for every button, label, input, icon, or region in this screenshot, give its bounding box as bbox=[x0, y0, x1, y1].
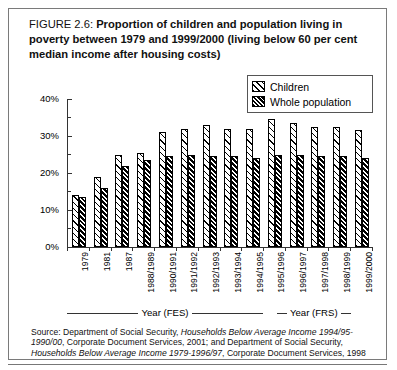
source-italic-2: Households Below Average Income 1979-199… bbox=[31, 348, 222, 358]
x-axis-tick-label: 1988/1989 bbox=[147, 252, 156, 293]
bar-children bbox=[246, 129, 253, 247]
x-axis-tick-mark bbox=[285, 247, 286, 251]
bar-series-container bbox=[68, 99, 373, 247]
axis-group-frs-label: Year (FRS) bbox=[287, 307, 341, 319]
x-axis-tick-label: 1992/1993 bbox=[212, 252, 221, 293]
plot-area bbox=[67, 99, 373, 248]
x-axis-tick-label: 1996/1997 bbox=[299, 252, 308, 293]
y-axis-tick-label: 40% bbox=[40, 92, 59, 105]
bar-group bbox=[115, 99, 129, 247]
figure-caption: FIGURE 2.6: Proportion of children and p… bbox=[29, 17, 369, 62]
x-axis-tick-label: 1987 bbox=[125, 252, 134, 271]
bar-group bbox=[355, 99, 369, 247]
bar-whole-population bbox=[144, 160, 151, 247]
bar-children bbox=[181, 129, 188, 247]
bar-whole-population bbox=[231, 156, 238, 247]
x-axis-tick-label: 1981 bbox=[103, 252, 112, 271]
bar-whole-population bbox=[79, 197, 86, 247]
bar-whole-population bbox=[318, 156, 325, 247]
bar-children bbox=[268, 119, 275, 247]
bar-children bbox=[115, 155, 122, 248]
bar-whole-population bbox=[101, 188, 108, 247]
x-axis-tick-label: 1990/1991 bbox=[169, 252, 178, 293]
axis-group-frs: Year (FRS) bbox=[277, 307, 369, 319]
axis-group-frs-rule-right bbox=[341, 313, 351, 314]
bar-whole-population bbox=[340, 156, 347, 247]
bar-children bbox=[159, 132, 166, 247]
bar-children bbox=[290, 123, 297, 247]
x-axis-labels: 1979198119871988/19891990/19911991/19921… bbox=[67, 252, 372, 304]
bar-whole-population bbox=[362, 158, 369, 247]
x-axis-tick-mark bbox=[328, 247, 329, 251]
bar-group bbox=[72, 99, 86, 247]
source-text-1: Source: Department of Social Security, bbox=[31, 327, 181, 337]
bar-group bbox=[268, 99, 282, 247]
x-axis-tick-label: 1995/1996 bbox=[277, 252, 286, 293]
y-axis-tick-label: 30% bbox=[40, 129, 59, 142]
x-axis-tick-label: 1991/1992 bbox=[190, 252, 199, 293]
bar-group bbox=[311, 99, 325, 247]
x-axis-tick-mark bbox=[89, 247, 90, 251]
bar-whole-population bbox=[122, 166, 129, 247]
bar-group bbox=[159, 99, 173, 247]
x-axis-tick-label: 1993/1994 bbox=[234, 252, 243, 293]
legend-swatch-children-icon bbox=[252, 81, 265, 92]
y-axis-tick-label: 0% bbox=[45, 240, 59, 253]
bar-group bbox=[333, 99, 347, 247]
y-axis: 0%10%20%30%40% bbox=[33, 99, 67, 247]
bar-whole-population bbox=[275, 155, 282, 248]
x-axis-tick-label: 1994/1995 bbox=[256, 252, 265, 293]
x-axis-tick-mark bbox=[350, 247, 351, 251]
x-axis-tick-mark bbox=[198, 247, 199, 251]
x-axis-tick-mark bbox=[263, 247, 264, 251]
x-axis-ticks bbox=[67, 247, 372, 251]
x-axis-tick-label: 1997/1998 bbox=[321, 252, 330, 293]
axis-group-fes-label: Year (FES) bbox=[138, 307, 191, 319]
x-axis-tick-mark bbox=[111, 247, 112, 251]
legend-label-children: Children bbox=[270, 81, 309, 93]
x-axis-tick-mark bbox=[132, 247, 133, 251]
axis-group-fes-rule-right bbox=[192, 313, 263, 314]
bar-whole-population bbox=[166, 156, 173, 247]
axis-group-fes: Year (FES) bbox=[67, 307, 263, 319]
bar-children bbox=[94, 177, 101, 247]
legend-item-children: Children bbox=[252, 79, 368, 94]
x-axis-tick-mark bbox=[220, 247, 221, 251]
axis-group-frs-rule-left bbox=[277, 313, 287, 314]
x-axis-tick-label: 1998/1999 bbox=[343, 252, 352, 293]
bar-children bbox=[355, 130, 362, 247]
figure-number: FIGURE 2.6: bbox=[29, 18, 93, 30]
bar-children bbox=[333, 127, 340, 247]
x-axis-tick-mark bbox=[241, 247, 242, 251]
source-text-2: , Corporate Document Services, 2001; and… bbox=[62, 337, 343, 347]
bar-whole-population bbox=[253, 158, 260, 247]
x-axis-tick-mark bbox=[307, 247, 308, 251]
figure-container: FIGURE 2.6: Proportion of children and p… bbox=[8, 8, 387, 360]
source-text-3: , Corporate Document Services, 1998 bbox=[222, 348, 366, 358]
bar-group bbox=[137, 99, 151, 247]
bar-group bbox=[181, 99, 195, 247]
bar-whole-population bbox=[188, 155, 195, 248]
bar-group bbox=[203, 99, 217, 247]
x-axis-tick-label: 1999/2000 bbox=[365, 252, 374, 293]
bar-children bbox=[137, 153, 144, 247]
bar-group bbox=[246, 99, 260, 247]
axis-group-fes-rule-left bbox=[67, 313, 138, 314]
source-note: Source: Department of Social Security, H… bbox=[31, 327, 371, 358]
bar-group bbox=[290, 99, 304, 247]
x-axis-tick-mark bbox=[154, 247, 155, 251]
bar-children bbox=[311, 127, 318, 247]
axis-group-annotations: Year (FES) Year (FRS) bbox=[67, 307, 377, 321]
x-axis-tick-mark bbox=[372, 247, 373, 251]
bar-whole-population bbox=[297, 155, 304, 248]
bar-children bbox=[72, 195, 79, 247]
bar-group bbox=[224, 99, 238, 247]
page-bottom-rule bbox=[8, 364, 387, 365]
bar-children bbox=[224, 129, 231, 247]
y-axis-tick-label: 20% bbox=[40, 166, 59, 179]
bar-children bbox=[203, 125, 210, 247]
x-axis-tick-label: 1979 bbox=[81, 252, 90, 271]
bar-whole-population bbox=[210, 156, 217, 247]
x-axis-tick-mark bbox=[67, 247, 68, 251]
x-axis-tick-mark bbox=[176, 247, 177, 251]
